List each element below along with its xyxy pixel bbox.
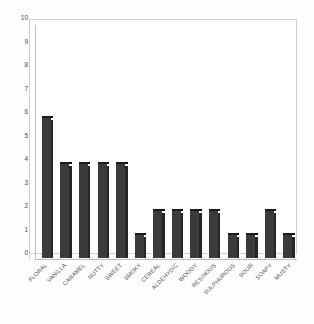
bar-top-side-face <box>218 209 221 211</box>
bar-slot <box>223 25 242 258</box>
x-axis-labels: FLORALVANILLACARAMELNUTTYSWEETSMOKYCEREA… <box>36 262 298 322</box>
bar-top-face <box>79 162 88 164</box>
bar-top-face <box>190 209 199 211</box>
bar-side-face <box>218 213 221 258</box>
y-axis-tick-label: 1 <box>8 226 28 233</box>
y-axis-tick-label: 4 <box>8 156 28 163</box>
bar-top-face <box>42 116 51 118</box>
bar-chart: 012345678910 FLORALVANILLACARAMELNUTTYSW… <box>0 0 314 324</box>
y-axis-tick-label: 6 <box>8 109 28 116</box>
bar-side-face <box>107 166 110 258</box>
bar-side-face <box>181 213 184 258</box>
bar-top-face <box>283 233 292 235</box>
x-axis-label-slot: SOUR <box>242 262 261 322</box>
bar-top-side-face <box>199 209 202 211</box>
bar[interactable] <box>60 164 69 258</box>
bar-top-side-face <box>69 162 72 164</box>
bar-top-side-face <box>88 162 91 164</box>
bar-top-face <box>209 209 218 211</box>
bar[interactable] <box>42 118 51 258</box>
y-axis-tick-label: 5 <box>8 132 28 139</box>
bar-top-face <box>60 162 69 164</box>
bar-slot <box>148 25 167 258</box>
x-axis-label-slot: CARAMEL <box>73 262 92 322</box>
bar-side-face <box>69 166 72 258</box>
y-axis-tick-label: 10 <box>8 15 28 22</box>
bar-top-side-face <box>292 233 295 235</box>
bar[interactable] <box>135 235 144 258</box>
bar-slot <box>74 25 93 258</box>
x-axis-label-slot: VANILLA <box>55 262 74 322</box>
bar-slot <box>167 25 186 258</box>
bar-top-side-face <box>181 209 184 211</box>
bar-series <box>37 25 297 258</box>
bar-top-face <box>98 162 107 164</box>
bar-side-face <box>125 166 128 258</box>
bar-side-face <box>199 213 202 258</box>
bar-top-side-face <box>237 233 240 235</box>
bar-top-face <box>246 233 255 235</box>
bar-slot <box>204 25 223 258</box>
bar-slot <box>111 25 130 258</box>
plot-area <box>35 25 297 260</box>
bar-side-face <box>162 213 165 258</box>
bar-top-side-face <box>51 116 54 118</box>
bar-slot <box>279 25 298 258</box>
bar-side-face <box>274 213 277 258</box>
x-axis-label-slot: ALDEHYDIC <box>167 262 186 322</box>
bar-top-face <box>153 209 162 211</box>
bar-top-side-face <box>144 233 147 235</box>
y-axis-tick-label: 9 <box>8 38 28 45</box>
x-axis-label-slot: SOAPY <box>261 262 280 322</box>
y-axis-tick-label: 8 <box>8 62 28 69</box>
bar-slot <box>37 25 56 258</box>
y-axis: 012345678910 <box>8 18 28 253</box>
y-axis-tick-label: 0 <box>8 250 28 257</box>
bar-slot <box>241 25 260 258</box>
bar-top-side-face <box>125 162 128 164</box>
bar-top-side-face <box>107 162 110 164</box>
bar-slot <box>130 25 149 258</box>
bar-slot <box>93 25 112 258</box>
bar-side-face <box>51 120 54 258</box>
bar-top-face <box>172 209 181 211</box>
y-axis-tick-label: 7 <box>8 85 28 92</box>
bar-top-side-face <box>255 233 258 235</box>
bar-top-face <box>135 233 144 235</box>
x-axis-label-slot: SWEET <box>111 262 130 322</box>
bar-slot <box>186 25 205 258</box>
x-axis-label-slot: SMOKY <box>130 262 149 322</box>
bar-side-face <box>88 166 91 258</box>
y-axis-tick-label: 3 <box>8 179 28 186</box>
bar-top-face <box>265 209 274 211</box>
bar-slot <box>56 25 75 258</box>
bar-top-face <box>228 233 237 235</box>
x-axis-label-slot: FLORAL <box>36 262 55 322</box>
x-axis-label-slot: WOODY <box>186 262 205 322</box>
bar-slot <box>260 25 279 258</box>
bar[interactable] <box>265 211 274 258</box>
bar-top-face <box>116 162 125 164</box>
bar-top-side-face <box>274 209 277 211</box>
bar-top-side-face <box>162 209 165 211</box>
bar[interactable] <box>116 164 125 258</box>
y-axis-tick-label: 2 <box>8 203 28 210</box>
x-axis-label-slot: MUSTY <box>279 262 298 322</box>
